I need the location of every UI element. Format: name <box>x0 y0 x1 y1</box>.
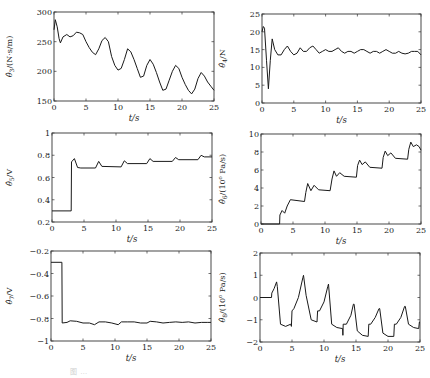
y-tick-label: 300 <box>37 8 52 17</box>
x-tick-label: 20 <box>175 224 185 233</box>
x-tick-label: 20 <box>174 343 184 352</box>
y-tick-label: −1 <box>246 316 258 325</box>
y-tick-label: 8 <box>254 148 259 157</box>
x-tick-label: 10 <box>110 343 120 352</box>
data-series-line <box>262 27 421 89</box>
y-tick-label: 5 <box>255 81 260 90</box>
figure-canvas: 0510152025150200250300t/sθ̂3/(N·s/m)0510… <box>0 0 430 378</box>
x-tick-label: 20 <box>177 103 187 112</box>
y-tick-label: 0 <box>254 220 259 229</box>
y-tick-label: −0.8 <box>30 315 49 324</box>
y-tick-label: 0 <box>253 294 258 303</box>
data-series-line <box>51 262 211 324</box>
x-axis-label: t/s <box>126 353 137 363</box>
subplot-theta6: 05101520250246810t/sθ̂6/(10⁶ Pa/s) <box>218 130 426 246</box>
data-series-line <box>52 155 212 211</box>
x-tick-label: 20 <box>383 344 393 353</box>
y-tick-label: 6 <box>254 166 259 175</box>
x-tick-label: 10 <box>113 103 123 112</box>
x-tick-label: 10 <box>111 224 121 233</box>
subplot-theta5: 05101520250.20.40.60.81t/sθ̂5/V <box>5 129 217 244</box>
x-tick-label: 5 <box>80 343 85 352</box>
x-tick-label: 25 <box>415 344 425 353</box>
subplot-theta7: 0510152025−1−0.8−0.6−0.4−0.2t/sθ̂7/V <box>5 247 216 363</box>
y-tick-label: 10 <box>249 130 259 139</box>
x-tick-label: 5 <box>289 344 294 353</box>
x-axis-label: t/s <box>129 113 140 123</box>
x-axis-label: t/s <box>336 115 347 125</box>
axes-frame <box>51 251 211 341</box>
y-tick-label: −0.6 <box>30 292 49 301</box>
x-tick-label: 0 <box>49 224 54 233</box>
y-tick-label: 25 <box>250 10 260 19</box>
x-tick-label: 15 <box>145 103 155 112</box>
x-tick-label: 25 <box>416 105 426 114</box>
y-axis-label: θ̂3/(N·s/m) <box>5 36 15 78</box>
subplot-theta4: 05101520250510152025t/sθ̂4/N <box>218 10 426 125</box>
x-tick-label: 15 <box>142 343 152 352</box>
figure-caption: 图 … <box>70 366 370 376</box>
x-tick-label: 15 <box>351 344 361 353</box>
x-tick-label: 0 <box>259 105 264 114</box>
axes-frame <box>261 134 421 224</box>
y-axis-label: θ̂5/V <box>5 169 15 186</box>
x-tick-label: 5 <box>83 103 88 112</box>
x-tick-label: 10 <box>320 226 330 235</box>
x-axis-label: t/s <box>127 234 138 244</box>
data-series-line <box>261 142 421 224</box>
x-axis-label: t/s <box>336 236 347 246</box>
y-axis-label: θ̂7/V <box>5 287 15 304</box>
y-tick-label: 200 <box>37 67 52 76</box>
y-tick-label: 0.4 <box>37 196 50 205</box>
y-tick-label: 1 <box>45 129 50 138</box>
y-tick-label: 1 <box>253 271 258 280</box>
y-tick-label: 15 <box>250 46 260 55</box>
x-tick-label: 20 <box>384 105 394 114</box>
y-tick-label: 0.2 <box>37 218 50 227</box>
x-tick-label: 0 <box>48 343 53 352</box>
x-tick-label: 15 <box>352 105 362 114</box>
y-tick-label: 2 <box>253 249 258 258</box>
x-tick-label: 5 <box>81 224 86 233</box>
x-tick-label: 10 <box>319 344 329 353</box>
data-series-line <box>260 275 420 336</box>
y-tick-label: 250 <box>37 38 52 47</box>
x-tick-label: 15 <box>143 224 153 233</box>
x-axis-label: t/s <box>335 354 346 364</box>
y-tick-label: 4 <box>254 184 259 193</box>
x-tick-label: 20 <box>384 226 394 235</box>
axes-frame <box>262 14 421 103</box>
x-tick-label: 0 <box>257 344 262 353</box>
x-tick-label: 25 <box>416 226 426 235</box>
data-series-line <box>54 20 214 94</box>
x-tick-label: 10 <box>321 105 331 114</box>
y-tick-label: 20 <box>250 28 260 37</box>
x-tick-label: 25 <box>207 224 217 233</box>
x-tick-label: 0 <box>51 103 56 112</box>
x-tick-label: 5 <box>291 105 296 114</box>
y-tick-label: 10 <box>250 63 260 72</box>
y-axis-label: θ̂6/(10⁶ Pa/s) <box>218 154 228 204</box>
y-tick-label: −2 <box>246 338 258 347</box>
x-tick-label: 0 <box>258 226 263 235</box>
y-axis-label: θ̂4/N <box>218 49 228 67</box>
y-tick-label: 0.6 <box>37 174 50 183</box>
y-tick-label: −0.4 <box>30 270 49 279</box>
axes-frame <box>54 12 214 101</box>
axes-frame <box>52 133 212 222</box>
x-tick-label: 25 <box>209 103 219 112</box>
subplot-theta8: 0510152025−2−1012t/sθ̂8/(10⁶ Pa/s) <box>218 249 425 364</box>
x-tick-label: 15 <box>352 226 362 235</box>
y-tick-label: 150 <box>37 97 52 106</box>
subplot-theta3: 0510152025150200250300t/sθ̂3/(N·s/m) <box>5 8 219 123</box>
y-tick-label: 0.8 <box>37 151 50 160</box>
y-tick-label: 2 <box>254 202 259 211</box>
y-axis-label: θ̂8/(10⁶ Pa/s) <box>218 272 228 322</box>
x-tick-label: 25 <box>206 343 216 352</box>
y-tick-label: 0 <box>255 99 260 108</box>
y-tick-label: −1 <box>37 337 49 346</box>
y-tick-label: −0.2 <box>30 247 49 256</box>
axes-frame <box>260 253 420 342</box>
x-tick-label: 5 <box>290 226 295 235</box>
